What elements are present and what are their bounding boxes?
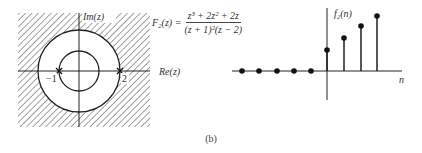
sample-n-minus-3	[274, 68, 280, 74]
sample-n-minus-1	[308, 68, 314, 74]
n-axis-label: n	[399, 74, 404, 85]
transfer-function-lhs: F₂(z) =	[152, 17, 181, 28]
figure-caption: (b)	[0, 133, 422, 144]
real-axis-label: Re(z)	[158, 66, 181, 78]
sample-n-3	[374, 13, 380, 71]
pole-label-2: 2	[122, 73, 127, 84]
sample-n-minus-4	[256, 68, 262, 74]
sample-n-1	[341, 35, 347, 71]
imag-axis-label: Im(z)	[82, 11, 105, 23]
pole-label-minus-1: −1	[46, 73, 57, 84]
sample-n-minus-5	[239, 68, 245, 74]
f2-axis-label: f₂(n)	[334, 8, 353, 20]
sample-n-0	[324, 47, 330, 71]
transfer-function-denominator: (z + 1)²(z − 2)	[184, 23, 242, 35]
stem-plot: f₂(n) n	[232, 8, 404, 100]
transfer-function-fraction: z³ + 2z² + 2z (z + 1)²(z − 2)	[184, 10, 242, 35]
sample-n-2	[358, 23, 364, 71]
transfer-function-numerator: z³ + 2z² + 2z	[186, 10, 241, 23]
sample-n-minus-2	[291, 68, 297, 74]
transfer-function: F₂(z) = z³ + 2z² + 2z (z + 1)²(z − 2)	[152, 10, 242, 35]
